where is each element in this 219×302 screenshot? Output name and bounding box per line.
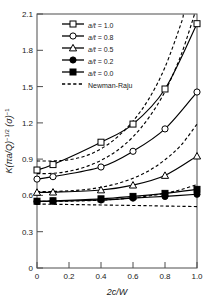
y-tick-label: 0.9 <box>22 155 34 164</box>
x-tick-label: 0.4 <box>95 272 107 281</box>
y-title-paren2: (σ) <box>4 115 14 126</box>
y-tick-label: 2.1 <box>22 10 34 19</box>
y-tick-label: 0.3 <box>22 228 34 237</box>
series-0-marker-5 <box>194 21 200 27</box>
x-axis-title: 2c/W <box>106 287 129 297</box>
series-0-marker-4 <box>162 86 168 92</box>
legend-label-4: a/t = 0.0 <box>88 70 114 77</box>
legend-label-0: a/t = 1.0 <box>88 22 114 29</box>
legend-marker-3 <box>70 57 76 63</box>
legend-marker-1 <box>70 33 76 39</box>
series-1-marker-0 <box>34 176 40 182</box>
series-4-marker-4 <box>162 190 168 196</box>
y-axis-title: K(πa/Q)−1/2 (σ)−1 <box>4 108 14 174</box>
series-4-marker-1 <box>50 198 56 204</box>
y-tick-label: 1.8 <box>22 46 34 55</box>
y-axis-tick-labels: 0 0.3 0.6 0.9 1.2 1.5 1.8 2.1 <box>22 10 34 273</box>
y-title-exp1: −1/2 <box>4 129 10 142</box>
plot-frame <box>37 14 197 268</box>
series-1-marker-3 <box>130 148 136 154</box>
series-1-marker-2 <box>98 164 104 170</box>
x-tick-label: 0.8 <box>159 272 171 281</box>
series-0-marker-2 <box>98 139 104 145</box>
series-4-marker-3 <box>130 193 136 199</box>
figure-container: 0 0.3 0.6 0.9 1.2 1.5 1.8 2.1 0 0.2 0.4 … <box>0 0 219 302</box>
chart-canvas: 0 0.3 0.6 0.9 1.2 1.5 1.8 2.1 0 0.2 0.4 … <box>0 0 219 302</box>
series-1-marker-5 <box>194 89 200 95</box>
y-tick-label: 0.6 <box>22 191 34 200</box>
x-tick-label: 0.2 <box>63 272 75 281</box>
series-1-marker-1 <box>50 174 56 180</box>
y-tick-label: 0 <box>29 264 34 273</box>
legend-label-1: a/t = 0.8 <box>88 34 114 41</box>
y-tick-label: 1.5 <box>22 83 34 92</box>
plot-area-border <box>37 14 197 268</box>
series-4-marker-0 <box>34 198 40 204</box>
y-title-paren1: (πa/Q) <box>4 141 14 168</box>
series-0-marker-1 <box>50 162 56 168</box>
y-title-exp2: −1 <box>4 108 10 116</box>
x-axis-tick-labels: 0 0.2 0.4 0.6 0.8 1.0 <box>35 272 203 281</box>
legend-label-2: a/t = 0.5 <box>88 46 114 53</box>
svg-text:K(πa/Q)−1/2 (σ)−1: K(πa/Q)−1/2 (σ)−1 <box>4 108 14 174</box>
series-0-marker-3 <box>130 121 136 127</box>
x-tick-label: 0 <box>35 272 40 281</box>
x-tick-label: 1.0 <box>191 272 203 281</box>
legend-label-newman-raju: Newman-Raju <box>88 82 132 90</box>
series-4-marker-2 <box>98 196 104 202</box>
legend-marker-0 <box>70 21 76 27</box>
series-1-marker-4 <box>162 126 168 132</box>
y-tick-label: 1.2 <box>22 119 34 128</box>
legend-marker-4 <box>70 69 76 75</box>
x-tick-label: 0.6 <box>127 272 139 281</box>
legend-label-3: a/t = 0.2 <box>88 58 114 65</box>
series-4-marker-5 <box>194 186 200 192</box>
series-0-marker-0 <box>34 167 40 173</box>
